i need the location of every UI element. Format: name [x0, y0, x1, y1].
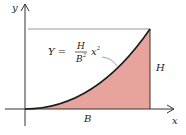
shaded-region — [25, 29, 150, 109]
equation-denominator: B — [75, 54, 83, 64]
equation-denominator-exponent: 2 — [82, 52, 86, 58]
x-axis-label: x — [172, 115, 178, 126]
equation-numerator: H — [76, 41, 85, 51]
y-axis-label: y — [11, 2, 18, 13]
height-label: H — [155, 62, 165, 73]
base-label: B — [83, 113, 91, 124]
parabola-area-diagram: y x Y = H B 2 x 2 H B — [0, 0, 186, 135]
equation-lhs: Y = — [48, 46, 66, 57]
equation-leader-line — [102, 57, 117, 66]
equation-variable-exponent: 2 — [96, 45, 100, 51]
